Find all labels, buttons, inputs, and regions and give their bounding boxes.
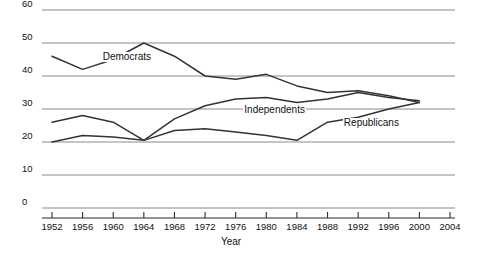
y-axis-tick-label: 0 — [22, 197, 27, 207]
x-axis-tick-label: 1976 — [225, 222, 246, 232]
series-label-republicans: Republicans — [343, 118, 400, 128]
x-axis-tick-label: 1964 — [133, 222, 154, 232]
x-axis-title: Year — [221, 237, 241, 247]
x-axis-tick-label: 1960 — [103, 222, 124, 232]
x-axis-tick-label: 1996 — [378, 222, 399, 232]
x-axis-tick-label: 1968 — [164, 222, 185, 232]
x-axis-ticks — [52, 212, 450, 218]
y-axis-tick-label: 10 — [22, 164, 33, 174]
x-axis-tick-label: 2004 — [439, 222, 460, 232]
x-axis-tick-label: 1988 — [317, 222, 338, 232]
y-axis-tick-label: 20 — [22, 131, 33, 141]
x-axis-tick-label: 1980 — [256, 222, 277, 232]
x-axis-tick-label: 1956 — [72, 222, 93, 232]
x-axis-tick-label: 1992 — [348, 222, 369, 232]
series-label-independents: Independents — [243, 105, 306, 115]
y-axis-tick-label: 40 — [22, 65, 33, 75]
line-chart: 0102030405060 19521956196019641968197219… — [0, 0, 480, 269]
x-axis-tick-label: 1972 — [194, 222, 215, 232]
x-axis-tick-label: 1952 — [41, 222, 62, 232]
series-label-democrats: Democrats — [102, 52, 152, 62]
x-axis-tick-label: 2000 — [409, 222, 430, 232]
y-axis-tick-label: 60 — [22, 0, 33, 9]
y-axis-tick-label: 30 — [22, 98, 33, 108]
x-axis-tick-label: 1984 — [286, 222, 307, 232]
y-axis-tick-label: 50 — [22, 32, 33, 42]
